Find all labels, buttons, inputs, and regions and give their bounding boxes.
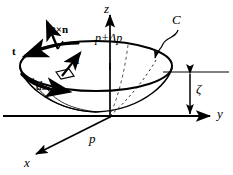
dashed-meridian-1 [110, 45, 128, 115]
x-axis-label: x [24, 156, 30, 169]
binormal-vector-label: t×n [52, 24, 68, 35]
pressure-label: p+Δp [95, 32, 122, 44]
curve-leader [155, 30, 178, 58]
z-axis-label: z [104, 2, 109, 15]
depth-label: ζ [196, 82, 201, 95]
x-axis [36, 117, 110, 154]
normal-vector-label: n [73, 55, 79, 66]
tangent-vector-label: t [12, 46, 16, 57]
figure-canvas: z y x C p p+Δp ζ ds t t×n n [0, 0, 233, 175]
origin-label: p [89, 132, 96, 145]
y-axis-label: y [217, 107, 223, 120]
curve-label: C [172, 13, 181, 26]
arc-element-label: ds [36, 80, 47, 92]
